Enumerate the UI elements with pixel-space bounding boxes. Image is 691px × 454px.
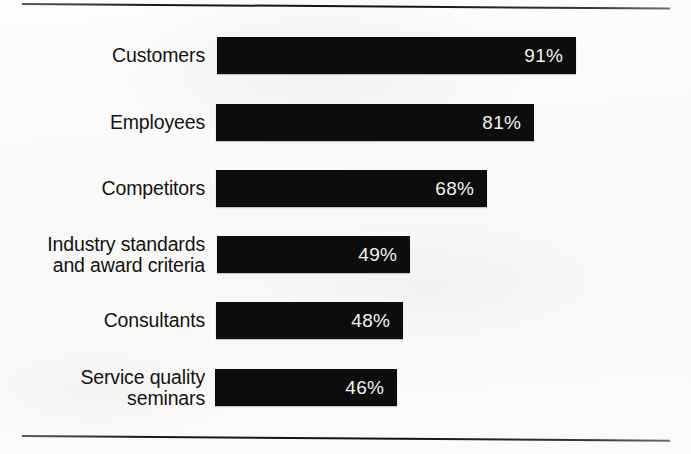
bar: 48%: [216, 302, 403, 339]
bar-value-label: 49%: [358, 244, 410, 266]
bar-track: 81%: [211, 104, 691, 141]
bar-row: Service quality seminars 46%: [0, 369, 691, 406]
category-label: Customers: [0, 45, 211, 66]
bar-row: Customers 91%: [0, 37, 691, 74]
bar-track: 48%: [211, 302, 691, 339]
bar-value-label: 68%: [435, 178, 487, 200]
bar-row: Competitors 68%: [0, 170, 691, 207]
bar-chart-figure: Customers 91% Employees 81% Competitors …: [0, 0, 691, 454]
bar-row: Employees 81%: [0, 104, 691, 141]
bar-track: 91%: [211, 37, 691, 74]
category-label: Employees: [0, 112, 211, 133]
bar: 49%: [217, 236, 410, 273]
bar: 68%: [216, 170, 487, 207]
bar-value-label: 48%: [351, 310, 403, 332]
bar-value-label: 81%: [482, 112, 534, 134]
bar: 46%: [215, 369, 397, 406]
bar-row: Industry standards and award criteria 49…: [0, 236, 691, 273]
bar: 91%: [217, 37, 576, 74]
bar-row: Consultants 48%: [0, 302, 691, 339]
category-label: Service quality seminars: [0, 367, 211, 409]
plot-area: Customers 91% Employees 81% Competitors …: [0, 0, 691, 454]
category-label: Competitors: [0, 178, 211, 199]
bar-track: 46%: [211, 369, 691, 406]
bar-track: 68%: [211, 170, 691, 207]
category-label: Industry standards and award criteria: [0, 234, 211, 276]
category-label: Consultants: [0, 310, 211, 331]
bar-value-label: 91%: [524, 45, 576, 67]
bar-value-label: 46%: [345, 377, 397, 399]
bar: 81%: [216, 104, 534, 141]
bar-track: 49%: [211, 236, 691, 273]
